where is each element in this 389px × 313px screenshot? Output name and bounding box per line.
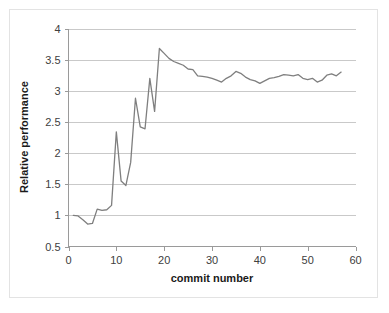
x-tick-label-60: 60 [349,254,361,266]
x-tick-label-30: 30 [206,254,218,266]
x-tick-label-40: 40 [254,254,266,266]
y-tick-label-2: 2 [54,147,60,159]
y-tick-label-0.5: 0.5 [45,241,60,253]
y-tick-label-1: 1 [54,209,60,221]
x-tick-labels-group: 0102030405060 [65,254,361,266]
relative-performance-line-chart: 0.511.522.533.54 0102030405060 commit nu… [0,0,389,313]
y-tick-marks-group [65,30,69,248]
x-tick-label-0: 0 [65,254,71,266]
x-axis-title: commit number [171,272,254,284]
y-tick-label-3.5: 3.5 [45,54,60,66]
y-tick-labels-group: 0.511.522.533.54 [45,23,60,253]
x-tick-marks-group [70,247,357,251]
y-axis-title: Relative performance [18,81,30,193]
y-tick-label-1.5: 1.5 [45,178,60,190]
x-tick-label-10: 10 [110,254,122,266]
gridlines-group [69,30,356,216]
x-tick-label-20: 20 [158,254,170,266]
y-tick-label-3: 3 [54,85,60,97]
chart-figure: 0.511.522.533.54 0102030405060 commit nu… [0,0,389,313]
y-tick-label-4: 4 [54,23,60,35]
x-tick-label-50: 50 [302,254,314,266]
y-tick-label-2.5: 2.5 [45,116,60,128]
data-series-line [73,48,341,224]
